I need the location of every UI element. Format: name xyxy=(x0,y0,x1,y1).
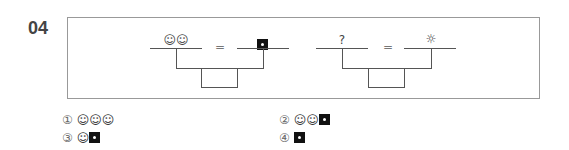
smiley-icon: ☺ xyxy=(77,131,90,145)
option-3[interactable]: ③☺ xyxy=(62,131,100,145)
equals-sign: = xyxy=(215,40,225,54)
black-square-icon xyxy=(294,132,305,143)
question-mark: ? xyxy=(332,33,352,47)
smiley-icons: ☺☺ xyxy=(294,113,319,127)
blank-line xyxy=(404,48,456,49)
black-square-icon xyxy=(319,114,330,125)
option-1[interactable]: ①☺☺☺ xyxy=(62,113,114,127)
option-4[interactable]: ④ xyxy=(279,131,305,145)
smiley-icons: ☺☺☺ xyxy=(77,113,115,127)
connector xyxy=(342,48,343,68)
connector xyxy=(176,48,177,68)
connector xyxy=(431,48,432,68)
black-square-icon xyxy=(89,132,100,143)
question-number: 04 xyxy=(28,18,48,39)
answer-box xyxy=(368,68,405,88)
equals-sign: = xyxy=(383,40,393,54)
smiley-pair-icon: ☺☺ xyxy=(160,33,192,47)
answer-box xyxy=(201,68,238,88)
connector xyxy=(263,48,264,68)
option-2[interactable]: ②☺☺ xyxy=(279,113,330,127)
sun-icon: ☼ xyxy=(421,32,441,46)
diagram-box xyxy=(67,17,540,99)
